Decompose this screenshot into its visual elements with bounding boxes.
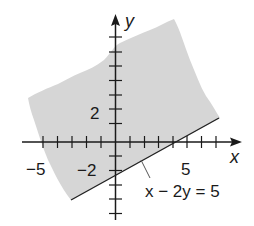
label-leader-line bbox=[141, 160, 150, 178]
y-tick-label-neg2: −2 bbox=[77, 161, 96, 180]
inequality-graph: y x −5 5 2 −2 x − 2y = 5 bbox=[0, 0, 254, 226]
y-axis-label: y bbox=[123, 11, 135, 31]
x-axis-label: x bbox=[229, 147, 240, 167]
x-tick-label-5: 5 bbox=[181, 160, 190, 179]
shaded-region bbox=[28, 19, 220, 200]
x-tick-label-neg5: −5 bbox=[26, 160, 45, 179]
equation-label: x − 2y = 5 bbox=[145, 182, 220, 201]
y-tick-label-2: 2 bbox=[90, 104, 99, 123]
